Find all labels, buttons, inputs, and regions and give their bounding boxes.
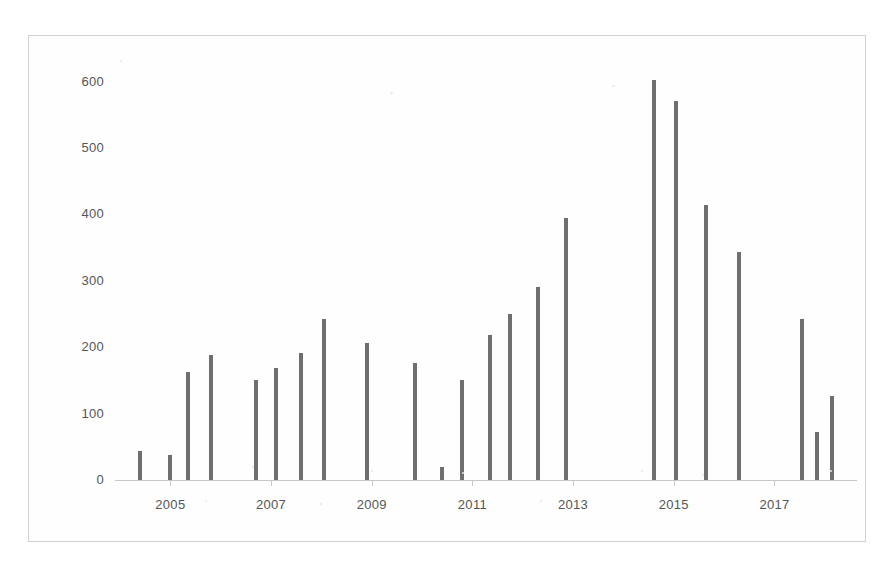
bar [138, 451, 142, 480]
bar [652, 80, 656, 480]
bar [564, 218, 568, 480]
bar [413, 363, 417, 480]
plot-area [115, 55, 855, 480]
scan-speckle [252, 466, 254, 468]
scan-speckle [612, 85, 615, 87]
scan-speckle [320, 503, 322, 505]
bar [440, 467, 444, 480]
scan-speckle [371, 470, 373, 472]
bar [365, 343, 369, 480]
x-tick-label: 2013 [558, 497, 588, 512]
x-tick-mark [573, 481, 574, 486]
x-tick-mark [372, 481, 373, 486]
x-tick-label: 2005 [155, 497, 185, 512]
scan-speckle [540, 500, 542, 502]
bar [815, 432, 819, 480]
bar [209, 355, 213, 481]
x-tick-label: 2009 [357, 497, 387, 512]
scan-speckle [830, 470, 832, 472]
bar [800, 319, 804, 480]
bar [168, 455, 172, 480]
bar [460, 380, 464, 480]
bar [488, 335, 492, 480]
scan-speckle [205, 500, 207, 502]
x-tick-label: 2017 [759, 497, 789, 512]
scan-speckle [641, 470, 643, 472]
bar [254, 380, 258, 480]
bar [674, 101, 678, 480]
bar [704, 205, 708, 480]
bar [737, 252, 741, 480]
scan-speckle [390, 92, 393, 94]
bar [536, 287, 540, 480]
x-tick-mark [774, 481, 775, 486]
bar [830, 396, 834, 480]
bar [322, 319, 326, 480]
chart-figure: # operations 0100200300400500600 2005200… [0, 0, 893, 568]
x-tick-mark [271, 481, 272, 486]
scan-speckle [462, 472, 464, 474]
bar [274, 368, 278, 480]
x-tick-mark [170, 481, 171, 486]
bar [299, 353, 303, 481]
bar [508, 314, 512, 480]
x-tick-label: 2015 [659, 497, 689, 512]
scan-speckle [120, 60, 122, 62]
x-tick-label: 2007 [256, 497, 286, 512]
bar [186, 372, 190, 480]
scan-speckle [702, 474, 704, 476]
x-tick-mark [674, 481, 675, 486]
x-tick-mark [472, 481, 473, 486]
x-tick-label: 2011 [458, 497, 487, 512]
